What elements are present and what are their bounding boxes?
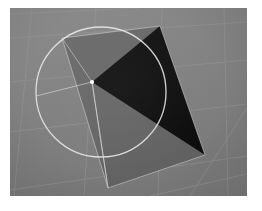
pivot-point-icon[interactable] — [90, 80, 94, 84]
screenshot-root: 3D Viewport Object Mode Rotate Plane — [0, 0, 262, 211]
viewport-canvas[interactable] — [10, 8, 247, 196]
3d-viewport[interactable] — [10, 8, 247, 196]
